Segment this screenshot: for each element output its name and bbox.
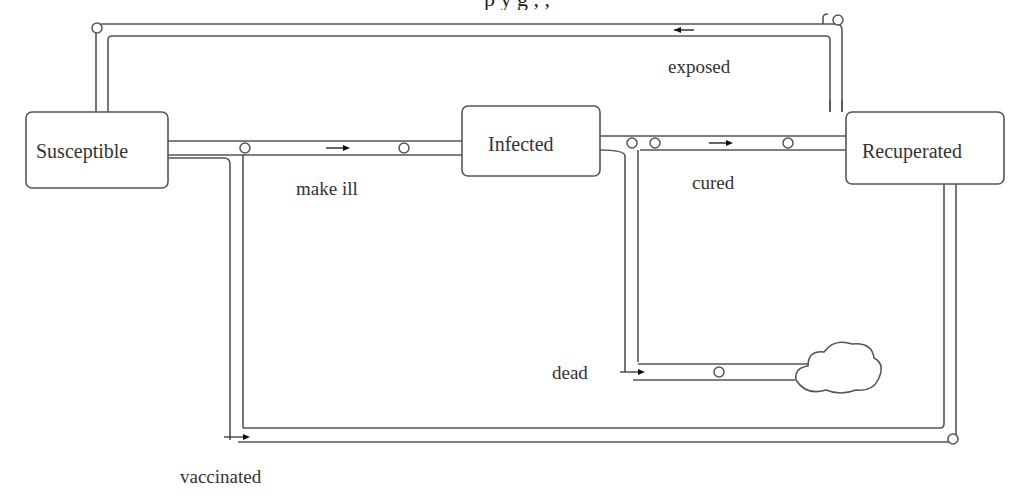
- flow-label-exposed: exposed: [668, 56, 730, 78]
- exposed-valve-right: [833, 15, 843, 25]
- dead-valve: [714, 367, 724, 377]
- flow-label-cured: cured: [692, 172, 734, 194]
- flow-label-make-ill: make ill: [296, 178, 358, 200]
- cured-valve: [650, 138, 660, 148]
- flow-label-dead: dead: [552, 362, 588, 384]
- cured-arrow-icon: [709, 140, 733, 146]
- stock-flow-diagram: [0, 0, 1034, 499]
- recuperated-connectors: [830, 100, 842, 112]
- exposed-arrow-icon: [674, 27, 694, 33]
- cloud-sink-icon: [796, 342, 881, 393]
- make-ill-valve-2: [399, 143, 409, 153]
- make-ill-arrow-icon: [326, 145, 350, 151]
- recuperated-label: Recuperated: [862, 140, 962, 163]
- flow-label-vaccinated: vaccinated: [180, 466, 261, 488]
- vaccinated-pipe: [168, 155, 956, 442]
- make-ill-valve: [240, 143, 250, 153]
- susceptible-label: Susceptible: [36, 140, 128, 163]
- cured-valve-2: [783, 138, 793, 148]
- exposed-valve-left: [92, 23, 102, 33]
- infected-label: Infected: [488, 133, 554, 156]
- vaccinated-valve: [948, 434, 958, 444]
- make-ill-pipe: [168, 141, 462, 155]
- dead-valve-top: [627, 138, 637, 148]
